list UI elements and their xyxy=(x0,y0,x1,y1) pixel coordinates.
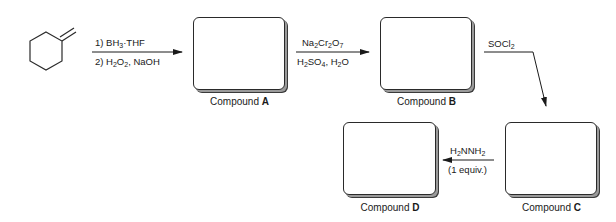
reagent-step2-above: Na2Cr2O7 xyxy=(302,37,343,48)
compound-b-label: Compound B xyxy=(380,96,473,107)
compound-a-box xyxy=(193,17,285,90)
reagent-step2-below: H2SO4, H2O xyxy=(297,56,349,67)
compound-d-box xyxy=(343,122,436,195)
methylenecyclohexane-structure xyxy=(30,28,76,70)
reaction-scheme: 1) BH3·THF 2) H2O2, NaOH Na2Cr2O7 H2SO4,… xyxy=(0,0,616,222)
reagent-step1-below: 2) H2O2, NaOH xyxy=(95,56,160,67)
compound-b-box xyxy=(380,17,472,90)
compound-d-label: Compound D xyxy=(343,202,437,213)
compound-c-box xyxy=(505,122,597,195)
reagent-step4-above: H2NNH2 xyxy=(450,145,485,156)
reagent-step3-above: SOCl2 xyxy=(488,38,515,49)
compound-c-label: Compound C xyxy=(505,202,598,213)
reaction-arrow-3 xyxy=(484,52,546,106)
reagent-step4-below: (1 equiv.) xyxy=(448,164,487,175)
compound-a-label: Compound A xyxy=(193,96,286,107)
reagent-step1-above: 1) BH3·THF xyxy=(95,37,145,48)
